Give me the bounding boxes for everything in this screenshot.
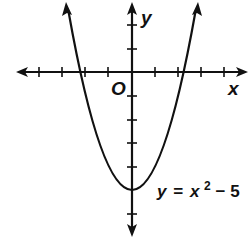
x-axis-label: x <box>227 78 240 99</box>
eq-lhs: y <box>156 182 168 201</box>
eq-exponent: 2 <box>204 179 211 193</box>
y-axis-label: y <box>140 7 153 28</box>
curve-equation-label: y = x 2 − 5 <box>156 175 240 201</box>
parabola-graph: y x O y = x 2 − 5 <box>0 0 251 239</box>
curve-left-arrow-icon <box>62 2 72 16</box>
eq-rest: − 5 <box>216 182 240 201</box>
eq-equals: = <box>173 182 183 201</box>
origin-label: O <box>111 78 126 99</box>
eq-var: x <box>189 182 201 201</box>
curve-right-arrow-icon <box>192 2 202 16</box>
y-axis <box>127 2 137 237</box>
